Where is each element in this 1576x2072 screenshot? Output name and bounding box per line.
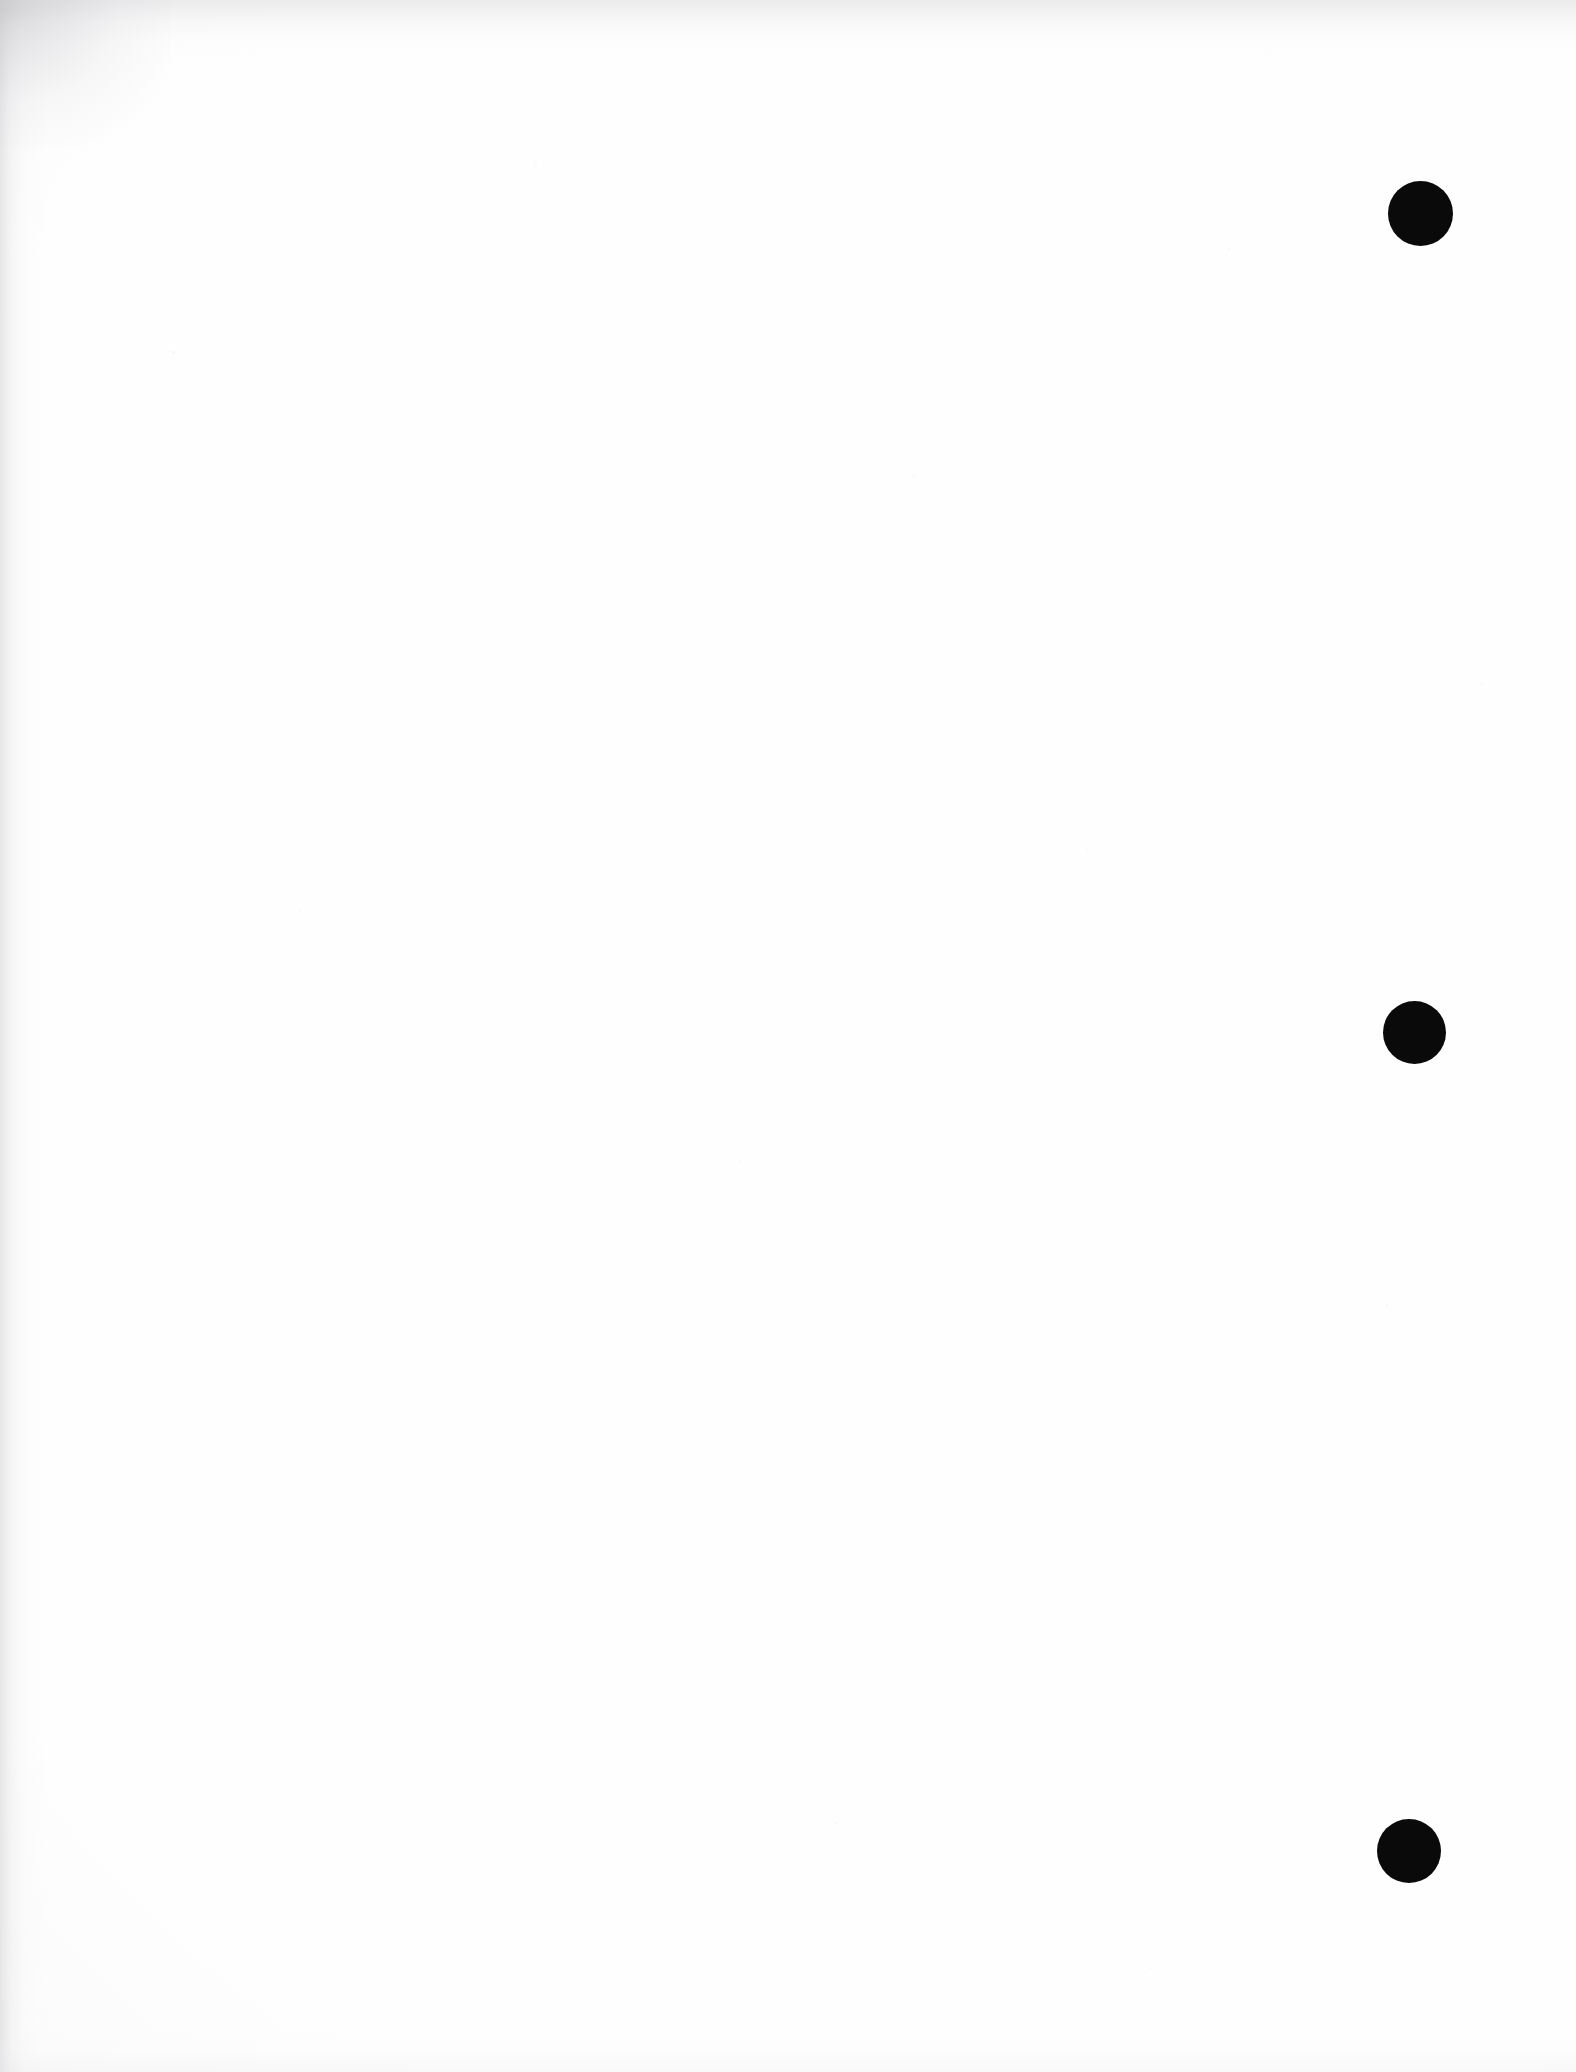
scanned-page [0,0,1576,2072]
registration-dot-top [1388,181,1453,246]
paper-background [0,0,1576,2072]
registration-dot-middle [1383,1001,1446,1064]
registration-dot-bottom [1377,1819,1441,1883]
